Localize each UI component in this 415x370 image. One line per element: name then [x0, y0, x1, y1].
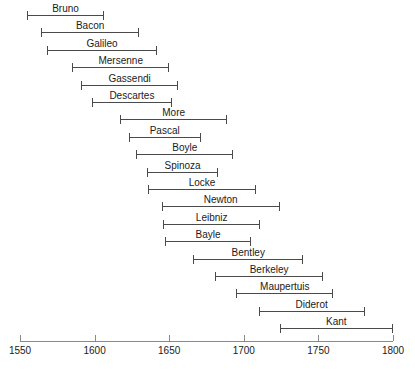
lifespan-bar [136, 154, 233, 155]
axis-tick [244, 335, 245, 341]
bar-label: More [120, 107, 227, 118]
lifespan-bar [148, 189, 255, 190]
lifespan-bar [47, 50, 157, 51]
timeline-row: Bruno [27, 4, 103, 22]
timeline-row: Bayle [165, 230, 252, 248]
lifespan-bar [81, 85, 178, 86]
lifespan-bar [92, 102, 173, 103]
axis-tick-label: 1650 [158, 345, 180, 357]
lifespan-bar [129, 137, 201, 138]
bar-label: Bruno [27, 3, 103, 14]
timeline-row: Kant [280, 317, 393, 335]
axis-tick-label: 1550 [9, 345, 31, 357]
bar-label: Newton [162, 194, 280, 205]
lifespan-bar [72, 67, 169, 68]
lifespan-timeline-chart: BrunoBaconGalileoMersenneGassendiDescart… [0, 0, 415, 370]
axis-tick [95, 335, 96, 341]
timeline-row: More [120, 108, 227, 126]
bar-label: Pascal [129, 125, 201, 136]
bar-label: Bacon [41, 20, 139, 31]
timeline-row: Spinoza [147, 161, 219, 179]
bar-label: Berkeley [215, 264, 322, 275]
bar-label: Leibniz [163, 212, 260, 223]
bar-label: Descartes [92, 90, 173, 101]
timeline-row: Pascal [129, 126, 201, 144]
lifespan-bar [147, 172, 219, 173]
bar-label: Maupertuis [236, 281, 333, 292]
lifespan-bar [162, 206, 280, 207]
timeline-row: Boyle [136, 143, 233, 161]
axis-tick [169, 335, 170, 341]
lifespan-bar [215, 276, 322, 277]
axis-tick-label: 1750 [307, 345, 329, 357]
timeline-row: Mersenne [72, 56, 169, 74]
lifespan-bar [259, 311, 365, 312]
timeline-row: Gassendi [81, 74, 178, 92]
axis-line [20, 341, 393, 342]
timeline-row: Leibniz [163, 213, 260, 231]
bar-label: Mersenne [72, 55, 169, 66]
axis-tick [318, 335, 319, 341]
bar-label: Locke [148, 177, 255, 188]
lifespan-bar [27, 15, 103, 16]
axis-tick [20, 335, 21, 341]
lifespan-bar [165, 241, 252, 242]
lifespan-bar [236, 293, 333, 294]
bar-label: Galileo [47, 38, 157, 49]
lifespan-bar [193, 259, 303, 260]
bar-label: Kant [280, 316, 393, 327]
axis-tick [393, 335, 394, 341]
axis-tick-label: 1800 [382, 345, 404, 357]
bar-label: Spinoza [147, 160, 219, 171]
bar-label: Bayle [165, 229, 252, 240]
lifespan-bar [120, 119, 227, 120]
timeline-row: Bacon [41, 21, 139, 39]
lifespan-bar [41, 32, 139, 33]
bar-label: Bentley [193, 247, 303, 258]
axis-tick-label: 1700 [233, 345, 255, 357]
timeline-row: Berkeley [215, 265, 322, 283]
timeline-row: Maupertuis [236, 282, 333, 300]
bar-label: Gassendi [81, 73, 178, 84]
timeline-row: Locke [148, 178, 255, 196]
bar-label: Diderot [259, 299, 365, 310]
axis-tick-label: 1600 [83, 345, 105, 357]
bar-label: Boyle [136, 142, 233, 153]
timeline-row: Descartes [92, 91, 173, 109]
lifespan-bar [163, 224, 260, 225]
timeline-row: Diderot [259, 300, 365, 318]
lifespan-bar [280, 328, 393, 329]
timeline-row: Galileo [47, 39, 157, 57]
timeline-row: Bentley [193, 248, 303, 266]
timeline-row: Newton [162, 195, 280, 213]
